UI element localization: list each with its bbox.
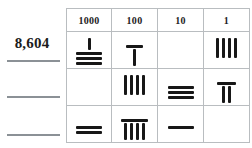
answer-rule [7, 134, 60, 136]
tally-cell[interactable] [158, 32, 204, 69]
tally-bar [168, 126, 194, 129]
tally-cell[interactable] [67, 32, 112, 69]
answer-rule [7, 96, 60, 98]
tally-cell[interactable] [112, 106, 158, 143]
answer-row[interactable] [0, 66, 66, 102]
table-row [67, 69, 250, 106]
tally-stroke [133, 49, 136, 66]
tally-stroke [222, 38, 225, 58]
tally-stroke [142, 123, 145, 140]
place-value-table: 1000 100 10 1 [66, 8, 250, 143]
tally-bar [168, 91, 194, 94]
tally-bar [76, 62, 102, 65]
tally-stroke [124, 123, 127, 140]
tally-strokes [124, 123, 145, 140]
tally-stroke [222, 86, 225, 103]
tally-bar [76, 57, 102, 60]
tally-cell[interactable] [204, 69, 250, 106]
tally-bar [126, 45, 143, 48]
answer-column: 8,604 [0, 8, 66, 140]
tally-bars [168, 86, 194, 99]
tally-stroke [88, 38, 91, 50]
tally-stroke [216, 38, 219, 58]
column-header-thousands: 1000 [67, 9, 112, 32]
answer-value: 8,604 [15, 36, 50, 60]
worksheet: 8,604 1000 100 10 1 [0, 0, 252, 148]
column-header-tens: 10 [158, 9, 204, 32]
tally-cell[interactable] [112, 32, 158, 69]
tally-stroke [130, 123, 133, 140]
tally-mark-group [76, 38, 102, 65]
tally-strokes [222, 86, 231, 103]
tally-stroke [142, 75, 145, 95]
column-header-ones: 1 [204, 9, 250, 32]
tally-mark-group [124, 75, 145, 95]
tally-bars [217, 82, 236, 85]
tally-stroke [228, 86, 231, 103]
tally-bar [76, 52, 102, 55]
table-body [67, 32, 250, 143]
answer-row[interactable] [0, 102, 66, 140]
tally-stroke [124, 75, 127, 95]
tally-mark-group [168, 86, 194, 99]
tally-cell[interactable] [204, 106, 250, 143]
tally-stroke [234, 38, 237, 58]
tally-bars [76, 52, 102, 65]
tally-cell[interactable] [158, 106, 204, 143]
table-row [67, 32, 250, 69]
table-row [67, 106, 250, 143]
tally-bars [76, 126, 102, 134]
table-header-row: 1000 100 10 1 [67, 9, 250, 32]
tally-strokes [216, 38, 237, 58]
tally-cell[interactable] [112, 69, 158, 106]
tally-cell[interactable] [67, 106, 112, 143]
tally-bar [76, 131, 102, 134]
tally-bars [168, 126, 194, 129]
tally-mark-group [217, 82, 236, 103]
tally-mark-group [216, 38, 237, 58]
tally-cell[interactable] [158, 69, 204, 106]
tally-strokes [133, 49, 136, 66]
column-header-hundreds: 100 [112, 9, 158, 32]
tally-bar [168, 96, 194, 99]
tally-cell[interactable] [204, 32, 250, 69]
tally-strokes [88, 38, 91, 50]
tally-mark-group [168, 126, 194, 129]
tally-bars [121, 119, 148, 122]
tally-bar [121, 119, 148, 122]
tally-mark-group [121, 119, 148, 140]
answer-row[interactable]: 8,604 [0, 30, 66, 66]
tally-bar [76, 126, 102, 129]
tally-stroke [228, 38, 231, 58]
tally-stroke [130, 75, 133, 95]
tally-stroke [136, 123, 139, 140]
tally-bar [217, 82, 236, 85]
tally-cell[interactable] [67, 69, 112, 106]
tally-mark-group [76, 126, 102, 134]
tally-stroke [136, 75, 139, 95]
tally-mark-group [126, 45, 143, 66]
tally-bar [168, 86, 194, 89]
answer-rule [7, 60, 60, 62]
tally-bars [126, 45, 143, 48]
tally-strokes [124, 75, 145, 95]
